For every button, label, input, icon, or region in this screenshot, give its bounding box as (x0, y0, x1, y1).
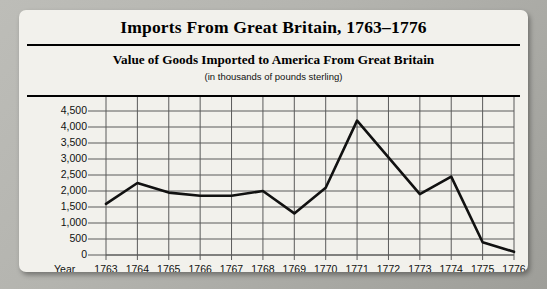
imports-series-line (106, 121, 514, 252)
y-axis-tick-label: 1,500 (27, 200, 87, 212)
y-axis-tick-label: 4,000 (27, 120, 87, 132)
y-axis-tick-marks (88, 111, 106, 255)
y-axis-tick-label: 3,500 (27, 136, 87, 148)
y-axis-tick-label: 3,000 (27, 152, 87, 164)
plot-area: 05001,0001,5002,0002,5003,0003,5004,0004… (19, 97, 528, 272)
title-divider (27, 44, 520, 46)
x-axis-tick-label: 1776 (496, 263, 528, 272)
subtitle-band: Value of Goods Imported to America From … (19, 48, 528, 93)
outer-frame: Imports From Great Britain, 1763–1776 Va… (0, 0, 547, 289)
line-chart-svg (19, 97, 528, 272)
y-axis-tick-label: 0 (27, 248, 87, 260)
y-axis-tick-label: 2,000 (27, 184, 87, 196)
page-title: Imports From Great Britain, 1763–1776 (120, 17, 427, 38)
chart-subtitle: Value of Goods Imported to America From … (19, 52, 528, 68)
horizontal-gridlines (106, 111, 514, 255)
y-axis-tick-label: 500 (27, 232, 87, 244)
chart-card: Imports From Great Britain, 1763–1776 Va… (19, 10, 528, 272)
y-axis-tick-label: 1,000 (27, 216, 87, 228)
chart-units-label: (in thousands of pounds sterling) (19, 71, 528, 82)
x-axis-title: Year (54, 263, 75, 272)
y-axis-tick-label: 2,500 (27, 168, 87, 180)
title-band: Imports From Great Britain, 1763–1776 (19, 10, 528, 44)
y-axis-tick-label: 4,500 (27, 104, 87, 116)
vertical-gridlines (106, 97, 514, 255)
